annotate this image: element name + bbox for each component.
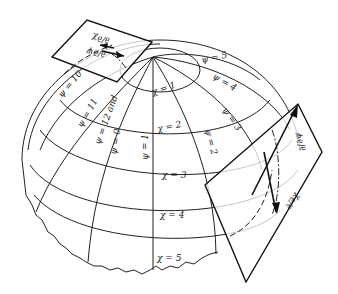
psi-4-label: ψ = 4 bbox=[211, 71, 239, 93]
chi-3-label: χ = 3 bbox=[161, 170, 187, 180]
diagram-canvas: ∂/∂χ ∂/∂ψ ∂/∂ψ ∂/∂χ χ = 1 χ = 2 χ = 3 χ … bbox=[0, 0, 338, 294]
psi-1-label: ψ = 1 bbox=[140, 134, 150, 160]
psi-11-label: ψ = 11 bbox=[75, 96, 100, 129]
psi-3-label: ψ = 3 bbox=[220, 105, 243, 132]
tangent-plane-right: ∂/∂ψ ∂/∂χ bbox=[205, 104, 322, 282]
chi-2-label: χ = 2 bbox=[155, 119, 182, 134]
chi-4-label: χ = 4 bbox=[159, 210, 185, 220]
chi-1-label: χ = 1 bbox=[150, 80, 177, 97]
psi-2-label: ψ = 2 bbox=[203, 128, 219, 156]
chi-5-label: χ = 5 bbox=[156, 253, 182, 263]
psi-10-label: ψ = 10 bbox=[56, 68, 84, 99]
psi-0-label: ψ = 0 bbox=[108, 128, 122, 156]
ragged-bottom-edge bbox=[22, 160, 218, 274]
psi-5-label: ψ = 5 bbox=[200, 50, 228, 65]
hemisphere-diagram: ∂/∂χ ∂/∂ψ ∂/∂ψ ∂/∂χ χ = 1 χ = 2 χ = 3 χ … bbox=[0, 0, 338, 294]
